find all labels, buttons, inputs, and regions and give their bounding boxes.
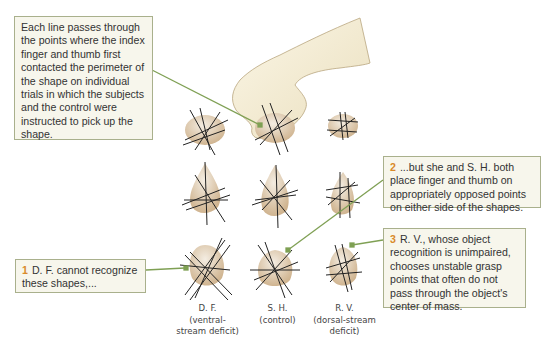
callout-1-text: D. F. cannot recognize these shapes,... (22, 264, 137, 289)
subject-desc: (ventral-stream deficit) (175, 314, 240, 337)
subject-name: D. F. (175, 302, 240, 314)
subject-desc: (dorsal-stream deficit) (312, 314, 377, 337)
callout-3: 3R. V., whose object recognition is unim… (383, 228, 526, 308)
subject-name: R. V. (312, 302, 377, 314)
callout-2: 2...but she and S. H. both place finger … (383, 156, 541, 208)
callout-number: 3 (390, 233, 396, 245)
callout-intro: Each line passes through the points wher… (14, 16, 153, 140)
callout-number: 1 (22, 264, 28, 276)
callout-2-text: ...but she and S. H. both place finger a… (390, 161, 526, 213)
subject-desc: (control) (250, 314, 305, 326)
callout-number: 2 (390, 161, 396, 173)
callout-3-text: R. V., whose object recognition is unimp… (390, 233, 511, 312)
callout-intro-text: Each line passes through the points wher… (21, 21, 145, 140)
subject-name: S. H. (250, 302, 305, 314)
callout-1: 1D. F. cannot recognize these shapes,... (15, 259, 146, 293)
column-label-df: D. F. (ventral-stream deficit) (175, 302, 240, 337)
column-label-sh: S. H. (control) (250, 302, 305, 325)
column-label-rv: R. V. (dorsal-stream deficit) (312, 302, 377, 337)
